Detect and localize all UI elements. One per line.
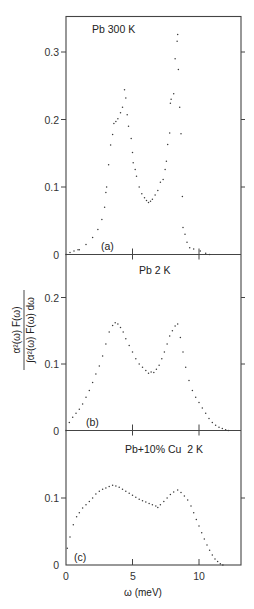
- data-point: [185, 367, 187, 369]
- data-point: [112, 325, 114, 327]
- x-tick-label-10: 10: [193, 570, 205, 582]
- data-point: [112, 485, 114, 487]
- x-tick-label-5: 5: [130, 570, 136, 582]
- data-point: [76, 516, 78, 518]
- data-point: [135, 358, 137, 360]
- y-axis-label: α²(ω) F(ω) ∫α²(ω) F(ω) dω: [11, 290, 36, 370]
- data-point: [209, 254, 211, 256]
- data-point: [176, 40, 178, 42]
- data-point: [138, 363, 140, 365]
- data-point: [145, 370, 147, 372]
- data-point: [177, 489, 179, 491]
- panel-a-tag: (a): [101, 240, 114, 252]
- data-point: [209, 550, 211, 552]
- data-point: [228, 430, 230, 432]
- data-point: [170, 103, 172, 105]
- data-point: [146, 200, 148, 202]
- data-point: [222, 428, 224, 430]
- data-point: [73, 250, 75, 252]
- panel-c-title: Pb+10% Cu 2 K: [125, 443, 203, 455]
- y-tick-label: 0.3: [44, 46, 59, 58]
- data-point: [214, 558, 216, 560]
- data-point: [196, 519, 198, 521]
- data-point: [132, 162, 134, 164]
- data-point: [160, 182, 162, 184]
- data-point: [118, 487, 120, 489]
- data-point: [128, 493, 130, 495]
- data-point: [166, 497, 168, 499]
- data-point: [155, 505, 157, 507]
- panel-a-title: Pb 300 K: [92, 23, 135, 35]
- data-point: [208, 418, 210, 420]
- data-point: [172, 330, 174, 332]
- data-point: [157, 190, 159, 192]
- data-point: [148, 503, 150, 505]
- data-point: [169, 335, 171, 337]
- data-point: [73, 524, 75, 526]
- data-point: [170, 99, 172, 101]
- data-point: [180, 337, 182, 339]
- data-point: [173, 491, 175, 493]
- data-point: [136, 175, 138, 177]
- data-point: [193, 512, 195, 514]
- data-point: [160, 504, 162, 506]
- data-point: [215, 424, 217, 426]
- data-point: [153, 372, 155, 374]
- data-point: [201, 532, 203, 534]
- data-point: [65, 254, 67, 256]
- y-tick-label: 0.1: [44, 181, 59, 193]
- y-tick-label: 0: [53, 425, 59, 437]
- data-point: [79, 512, 81, 514]
- figure-frame: [66, 17, 241, 566]
- data-point: [200, 250, 202, 252]
- data-point: [114, 322, 116, 324]
- data-point: [112, 134, 114, 136]
- data-point: [85, 504, 87, 506]
- data-point: [157, 507, 159, 509]
- data-point: [188, 380, 190, 382]
- data-point: [174, 325, 176, 327]
- data-point: [122, 331, 124, 333]
- data-point: [158, 365, 160, 367]
- data-point: [120, 327, 122, 329]
- data-point: [75, 412, 77, 414]
- data-point: [166, 161, 168, 163]
- data-point: [198, 402, 200, 404]
- data-point: [126, 114, 128, 116]
- data-point: [132, 152, 134, 154]
- data-point: [89, 390, 91, 392]
- data-point: [92, 237, 94, 239]
- data-point: [79, 408, 81, 410]
- data-point: [104, 207, 106, 209]
- data-point: [148, 373, 150, 375]
- data-point: [217, 561, 219, 563]
- data-point: [125, 491, 127, 493]
- panel-b-tag: (b): [86, 416, 99, 428]
- data-point: [154, 194, 156, 196]
- data-point: [128, 126, 130, 128]
- data-point: [164, 351, 166, 353]
- data-point: [120, 112, 122, 114]
- data-point: [125, 97, 127, 99]
- data-point: [212, 422, 214, 424]
- data-point: [102, 489, 104, 491]
- data-point: [92, 497, 94, 499]
- panel-b-title: Pb 2 K: [139, 264, 171, 276]
- data-point: [132, 495, 134, 497]
- data-point: [67, 548, 69, 550]
- data-point: [222, 564, 224, 566]
- data-point: [218, 426, 220, 428]
- y-tick-label: 0: [53, 559, 59, 571]
- data-point: [156, 369, 158, 371]
- data-point: [142, 500, 144, 502]
- y-tick-label: 0.1: [44, 492, 59, 504]
- data-point: [186, 242, 188, 244]
- data-point: [204, 538, 206, 540]
- data-point: [182, 351, 184, 353]
- x-axis-label: ω (meV): [124, 587, 162, 598]
- data-point: [97, 229, 99, 231]
- data-point: [110, 144, 112, 146]
- data-point: [212, 554, 214, 556]
- data-point: [173, 93, 175, 95]
- data-point: [115, 121, 117, 123]
